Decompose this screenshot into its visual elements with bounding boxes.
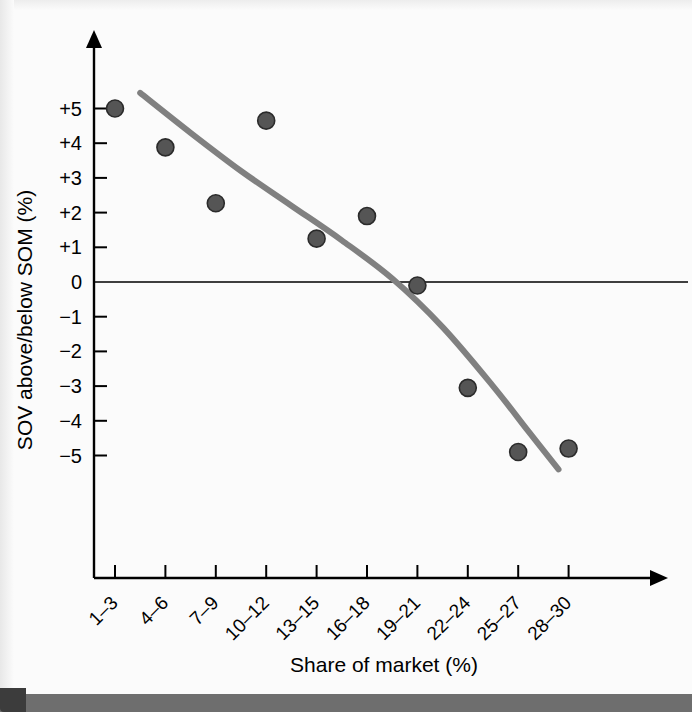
y-tick-label: +3: [59, 167, 82, 189]
scatter-chart: +5+4+3+2+10−1−2−3−4−5 1–34–67–910–1213–1…: [0, 0, 692, 694]
data-point: [359, 208, 376, 225]
x-tick-label: 7–9: [185, 592, 222, 629]
x-tick-label: 13–15: [271, 592, 323, 644]
data-point: [560, 440, 577, 457]
x-axis-arrowhead: [650, 570, 668, 586]
y-tick-label: −4: [59, 410, 82, 432]
figure-root: +5+4+3+2+10−1−2−3−4−5 1–34–67–910–1213–1…: [0, 0, 692, 712]
x-tick-label: 1–3: [85, 592, 122, 629]
data-point: [207, 195, 224, 212]
y-tick-label: +4: [59, 132, 82, 154]
x-tick-label: 4–6: [135, 592, 172, 629]
x-tick-label: 16–18: [322, 592, 374, 644]
data-point: [510, 444, 527, 461]
y-tick-label: −5: [59, 445, 82, 467]
x-tick-label: 22–24: [422, 592, 475, 645]
data-point: [157, 139, 174, 156]
data-point: [258, 112, 275, 129]
x-tick-label: 10–12: [221, 592, 273, 644]
y-tick-label: 0: [71, 271, 82, 293]
x-tick-label: 28–30: [523, 592, 575, 644]
y-tick-label: +2: [59, 202, 82, 224]
x-tick-label: 25–27: [473, 592, 525, 644]
trend-curve: [140, 93, 558, 469]
data-point: [308, 230, 325, 247]
data-point: [409, 277, 426, 294]
trend-curve-path: [140, 93, 558, 469]
x-axis-title: Share of market (%): [290, 653, 478, 676]
y-tick-label: +5: [59, 98, 82, 120]
axes-layer: [86, 30, 668, 586]
page-corner-marker: [0, 688, 26, 712]
y-tick-label: −2: [59, 340, 82, 362]
y-axis-arrowhead: [86, 30, 102, 48]
data-point: [459, 379, 476, 396]
y-tick-label: −3: [59, 375, 82, 397]
page-footer-bar: [0, 694, 692, 712]
y-tick-label: +1: [59, 236, 82, 258]
data-point: [107, 100, 124, 117]
y-axis-title: SOV above/below SOM (%): [13, 190, 36, 450]
y-tick-label: −1: [59, 306, 82, 328]
x-tick-label: 19–21: [372, 592, 424, 644]
